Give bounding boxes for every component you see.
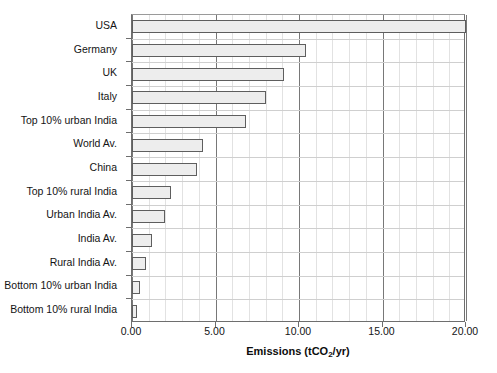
bar <box>132 68 284 81</box>
x-axis-tick-mark <box>465 322 466 327</box>
bar <box>132 44 306 57</box>
plot-area <box>131 14 465 322</box>
bar <box>132 210 165 223</box>
bar <box>132 257 146 270</box>
x-axis-tick-mark <box>382 322 383 327</box>
y-axis-tick-label: Bottom 10% rural India <box>10 304 117 315</box>
bar <box>132 163 197 176</box>
y-axis-tick-label: Urban India Av. <box>46 209 117 220</box>
x-axis-title-pre: Emissions (tCO <box>246 345 328 357</box>
y-axis-tick-label: Bottom 10% urban India <box>4 280 117 291</box>
y-axis-tick-label: Germany <box>74 44 117 55</box>
bar <box>132 91 266 104</box>
y-axis-tick-label: Rural India Av. <box>50 257 117 268</box>
bars-layer <box>132 15 464 321</box>
x-axis-tick-mark <box>215 322 216 327</box>
y-axis-tick-label: UK <box>102 67 117 78</box>
x-axis-title: Emissions (tCO2/yr) <box>131 345 465 359</box>
y-axis-tick-label: Top 10% rural India <box>27 186 117 197</box>
y-axis-tick-label: China <box>90 162 117 173</box>
bar <box>132 305 137 318</box>
x-axis-tick-mark <box>131 322 132 327</box>
emissions-bar-chart: USAGermanyUKItalyTop 10% urban IndiaWorl… <box>0 0 497 373</box>
bar <box>132 139 203 152</box>
y-axis-tick-label: USA <box>95 20 117 31</box>
y-axis-tick-label: Italy <box>98 91 117 102</box>
gridline-major <box>466 15 467 321</box>
y-axis-tick-label: World Av. <box>73 138 117 149</box>
x-axis-labels: 0.005.0010.0015.0020.00 <box>0 325 497 341</box>
x-axis-tick-mark <box>298 322 299 327</box>
bar <box>132 20 466 33</box>
bar <box>132 115 246 128</box>
y-axis-tick-label: Top 10% urban India <box>21 115 117 126</box>
y-axis-tick-label: India Av. <box>78 233 117 244</box>
bar <box>132 234 152 247</box>
x-axis-title-post: /yr) <box>333 345 350 357</box>
y-axis-labels: USAGermanyUKItalyTop 10% urban IndiaWorl… <box>0 14 126 322</box>
bar <box>132 281 140 294</box>
bar <box>132 186 171 199</box>
